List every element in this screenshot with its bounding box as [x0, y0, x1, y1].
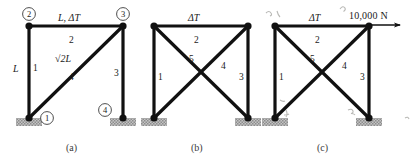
panel-c-top-chord-dimension: ΔT — [309, 13, 320, 23]
panel-c-caption: (c) — [317, 143, 328, 153]
panel-a-member-label-3: 3 — [114, 69, 119, 79]
panel-b-top-chord-dimension: ΔT — [188, 13, 199, 23]
truss-figure-page: 2 3 1 4 L, ΔT L √2L 1 2 3 4 (a) ΔT 1 2 3… — [0, 0, 414, 165]
panel-a-node-label-1: 1 — [41, 112, 54, 125]
panel-c-joint-3 — [365, 22, 372, 29]
panel-a-joint-2 — [25, 22, 32, 29]
panel-a-joint-1 — [25, 114, 32, 121]
panel-a-left-vertical-dimension: L — [13, 64, 19, 74]
panel-b-joint-1 — [150, 114, 157, 121]
panel-a-node-label-4: 4 — [99, 104, 112, 117]
panel-b-member-label-1: 1 — [158, 73, 163, 83]
panel-c-member-label-2: 2 — [315, 36, 320, 46]
panel-a-node-label-3: 3 — [117, 8, 130, 21]
panel-a-joint-3 — [119, 22, 126, 29]
panel-a-diagonal-dimension: √2L — [55, 54, 71, 64]
panel-c-member-label-1: 1 — [279, 73, 284, 83]
panel-c-member-label-5: 5 — [310, 55, 315, 65]
panel-a-member-label-1: 1 — [33, 64, 38, 74]
panel-a-member-label-2: 2 — [69, 36, 74, 46]
figure-vector-layer — [0, 0, 414, 165]
panel-b-member-label-3: 3 — [239, 73, 244, 83]
panel-b-member-label-4: 4 — [221, 62, 226, 72]
panel-a-caption: (a) — [66, 143, 77, 153]
panel-c-joint-2 — [271, 22, 278, 29]
panel-b-member-label-5: 5 — [189, 55, 194, 65]
panel-c-member-label-3: 3 — [360, 73, 365, 83]
panel-b-joint-4 — [244, 114, 251, 121]
panel-a-member-label-4: 4 — [69, 73, 74, 83]
panel-a-node-label-2: 2 — [23, 8, 36, 21]
panel-b-joint-3 — [244, 22, 251, 29]
panel-b-caption: (b) — [191, 143, 203, 153]
pencil-annotation-strokes — [266, 7, 409, 119]
applied-force-label: 10,000 N — [349, 11, 388, 21]
panel-c-member-label-4: 4 — [342, 62, 347, 72]
panel-b-joint-2 — [150, 22, 157, 29]
panel-c-joint-4 — [365, 114, 372, 121]
panel-a-joint-4 — [119, 114, 126, 121]
panel-b-member-label-2: 2 — [194, 36, 199, 46]
panel-c-joint-1 — [271, 114, 278, 121]
panel-a-top-chord-dimension: L, ΔT — [58, 13, 80, 23]
